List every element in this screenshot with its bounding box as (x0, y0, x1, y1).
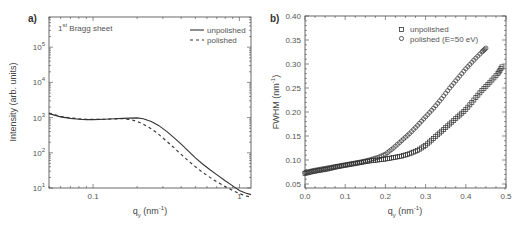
legend-label-polished-b: polished (E=50 eV) (410, 35, 479, 44)
panel-label-b: b) (270, 13, 279, 24)
series-markers-unpolished (303, 65, 504, 176)
y-tick-label-b: 0.40 (285, 12, 301, 21)
y-tick-label-b: 0.30 (285, 60, 301, 69)
x-tick-label-b: 0.0 (299, 192, 311, 201)
y-axis-label-b: FWHM (nm-1​) (270, 75, 281, 129)
legend-marker-square (400, 28, 404, 32)
y-tick-label-b: 0.15 (285, 132, 301, 141)
legend-marker-circle (399, 36, 403, 40)
y-tick-label-b: 0.25 (285, 84, 301, 93)
y-tick-label-b: 0.10 (285, 156, 301, 165)
chart-panel-b: b)0.00.10.20.30.40.50.050.100.150.200.25… (0, 0, 532, 230)
x-axis-label-b: qy​ (nm-1​) (388, 205, 422, 218)
x-tick-label-b: 0.3 (420, 192, 432, 201)
y-tick-label-b: 0.05 (285, 180, 301, 189)
y-tick-label-b: 0.20 (285, 108, 301, 117)
figure: a)0.11101​102​103​104​105​qy​ (nm-1​)Int… (0, 0, 532, 230)
x-tick-label-b: 0.4 (460, 192, 472, 201)
legend-label-unpolished-b: unpolished (410, 25, 449, 34)
y-tick-label-b: 0.35 (285, 36, 301, 45)
x-tick-label-b: 0.1 (340, 192, 352, 201)
x-tick-label-b: 0.5 (500, 192, 512, 201)
x-tick-label-b: 0.2 (380, 192, 392, 201)
